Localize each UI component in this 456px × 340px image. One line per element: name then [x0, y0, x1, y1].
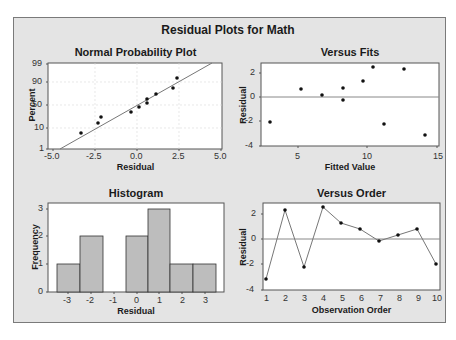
normal-probability-plot	[46, 63, 222, 151]
versus-fits-plot	[259, 63, 439, 148]
versus-order-plot	[261, 203, 440, 290]
histogram-plot	[46, 203, 224, 294]
plots-canvas	[0, 0, 456, 340]
